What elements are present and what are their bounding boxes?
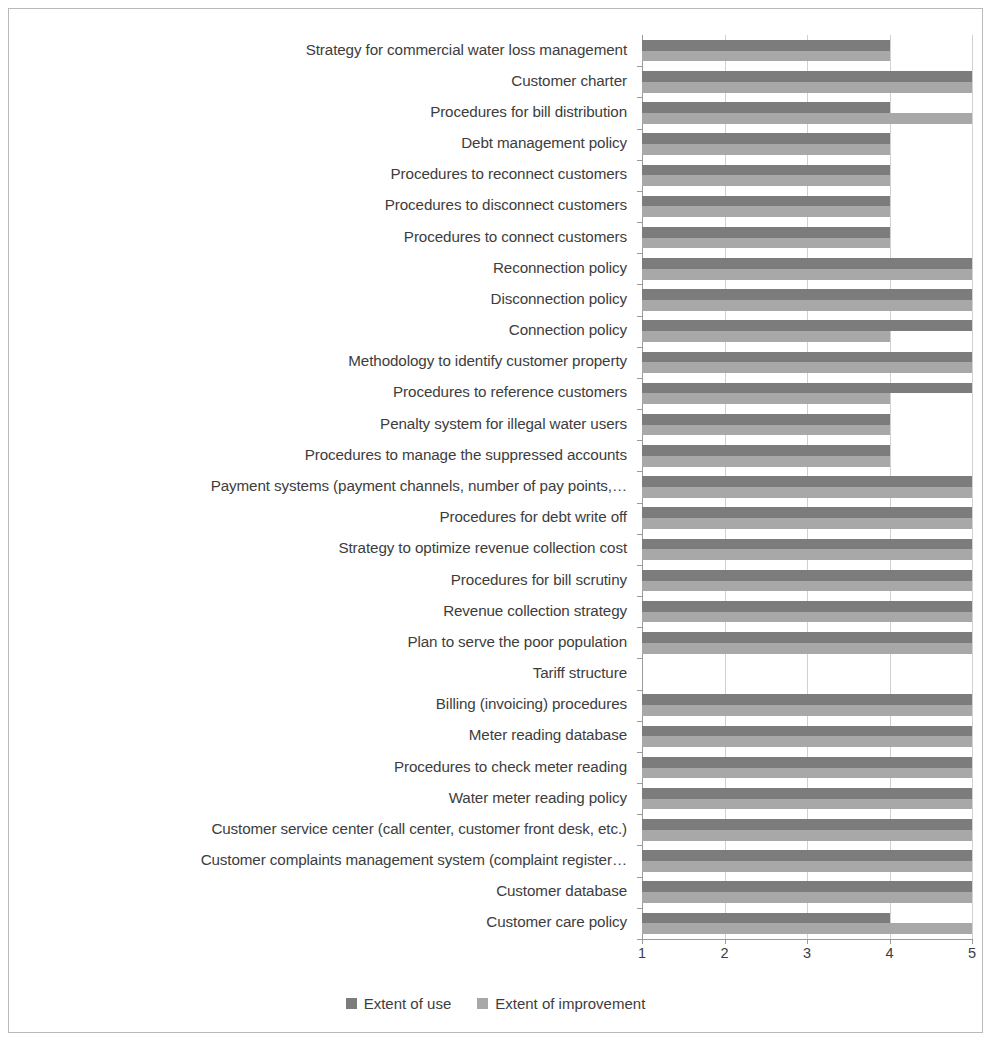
bar-extent-of-use <box>642 320 972 331</box>
bar-extent-of-improvement <box>642 206 890 217</box>
bar-extent-of-improvement <box>642 175 890 186</box>
category-axis-tick <box>637 440 642 441</box>
category-axis-tick <box>637 66 642 67</box>
value-axis-tick-label: 3 <box>803 945 811 961</box>
category-axis-tick <box>637 284 642 285</box>
bar-extent-of-use <box>642 476 972 487</box>
bar-extent-of-use <box>642 539 972 550</box>
bar-extent-of-improvement <box>642 51 890 62</box>
bar-extent-of-use <box>642 507 972 518</box>
bar-extent-of-use <box>642 40 890 51</box>
bar-extent-of-improvement <box>642 425 890 436</box>
category-label: Customer charter <box>511 73 627 88</box>
value-axis-tick-label: 2 <box>720 945 728 961</box>
bar-extent-of-improvement <box>642 643 972 654</box>
category-label: Meter reading database <box>469 727 627 742</box>
legend-item-extent-of-improvement: Extent of improvement <box>477 995 645 1012</box>
legend-label-extent-of-use: Extent of use <box>364 995 452 1012</box>
bar-extent-of-improvement <box>642 768 972 779</box>
category-label: Customer care policy <box>486 914 627 929</box>
bar-extent-of-use <box>642 726 972 737</box>
bar-extent-of-improvement <box>642 238 890 249</box>
bar-extent-of-improvement <box>642 923 972 934</box>
category-label: Procedures for bill scrutiny <box>451 572 627 587</box>
category-axis-tick <box>637 627 642 628</box>
category-label: Procedures for bill distribution <box>430 104 627 119</box>
bar-extent-of-improvement <box>642 705 972 716</box>
bar-extent-of-use <box>642 788 972 799</box>
category-label: Methodology to identify customer propert… <box>348 353 627 368</box>
bar-extent-of-use <box>642 383 972 394</box>
legend-item-extent-of-use: Extent of use <box>346 995 452 1012</box>
bar-extent-of-improvement <box>642 518 972 529</box>
category-label: Connection policy <box>509 322 627 337</box>
bar-extent-of-improvement <box>642 487 972 498</box>
bar-extent-of-use <box>642 258 972 269</box>
category-axis-tick <box>637 316 642 317</box>
value-axis-tick-label: 1 <box>638 945 646 961</box>
category-label: Strategy to optimize revenue collection … <box>338 540 627 555</box>
category-axis-tick <box>637 690 642 691</box>
bar-extent-of-improvement <box>642 456 890 467</box>
category-axis-tick <box>637 160 642 161</box>
category-axis-tick <box>637 347 642 348</box>
bar-extent-of-use <box>642 414 890 425</box>
bar-extent-of-use <box>642 694 972 705</box>
bar-extent-of-use <box>642 570 972 581</box>
value-axis-tick-label: 5 <box>968 945 976 961</box>
bar-extent-of-improvement <box>642 362 972 373</box>
bar-extent-of-use <box>642 196 890 207</box>
legend-swatch-icon-use <box>346 998 357 1009</box>
category-label: Customer database <box>496 883 627 898</box>
plot-area <box>642 35 972 939</box>
category-label: Plan to serve the poor population <box>407 634 627 649</box>
gridline <box>972 35 973 939</box>
category-axis-tick <box>637 814 642 815</box>
bar-extent-of-use <box>642 913 890 924</box>
bar-extent-of-use <box>642 757 972 768</box>
category-label: Customer service center (call center, cu… <box>211 821 627 836</box>
category-label: Disconnection policy <box>491 291 627 306</box>
category-label: Water meter reading policy <box>449 790 627 805</box>
bar-extent-of-use <box>642 102 890 113</box>
bar-extent-of-improvement <box>642 549 972 560</box>
bar-extent-of-use <box>642 227 890 238</box>
value-axis-tick <box>807 939 808 944</box>
category-axis-tick <box>637 939 642 940</box>
category-axis-tick <box>637 845 642 846</box>
bar-extent-of-improvement <box>642 393 890 404</box>
chart-frame: Strategy for commercial water loss manag… <box>8 8 983 1033</box>
legend-label-extent-of-improvement: Extent of improvement <box>495 995 645 1012</box>
category-axis-tick <box>637 534 642 535</box>
bar-extent-of-improvement <box>642 300 972 311</box>
category-axis-tick <box>637 908 642 909</box>
category-label: Procedures to disconnect customers <box>385 197 627 212</box>
chart-legend: Extent of use Extent of improvement <box>9 995 982 1012</box>
bar-extent-of-use <box>642 133 890 144</box>
category-axis-tick <box>637 409 642 410</box>
category-axis-tick <box>637 471 642 472</box>
chart-plot-wrapper: Strategy for commercial water loss manag… <box>9 9 982 1032</box>
bar-extent-of-improvement <box>642 331 890 342</box>
category-label: Procedures to check meter reading <box>394 759 627 774</box>
category-axis-tick <box>637 783 642 784</box>
category-axis-labels: Strategy for commercial water loss manag… <box>15 35 635 939</box>
bar-extent-of-use <box>642 881 972 892</box>
bar-extent-of-use <box>642 601 972 612</box>
category-label: Payment systems (payment channels, numbe… <box>211 478 627 493</box>
category-axis-tick <box>637 191 642 192</box>
bar-extent-of-improvement <box>642 144 890 155</box>
bar-extent-of-improvement <box>642 612 972 623</box>
category-label: Penalty system for illegal water users <box>380 416 627 431</box>
bar-extent-of-improvement <box>642 113 972 124</box>
bar-extent-of-improvement <box>642 892 972 903</box>
bar-extent-of-improvement <box>642 581 972 592</box>
category-label: Procedures to manage the suppressed acco… <box>305 447 627 462</box>
bar-extent-of-use <box>642 850 972 861</box>
value-axis-tick <box>725 939 726 944</box>
bar-extent-of-use <box>642 445 890 456</box>
category-label: Procedures to reference customers <box>393 384 627 399</box>
category-axis-tick <box>637 378 642 379</box>
category-axis-tick <box>637 253 642 254</box>
category-label: Revenue collection strategy <box>443 603 627 618</box>
